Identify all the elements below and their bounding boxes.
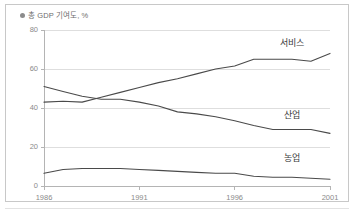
series-label-3: 농업 [284, 153, 300, 164]
series-label-1: 서비스 [280, 38, 304, 49]
x-tick-label: 1991 [119, 193, 159, 202]
chart-plot-area [0, 0, 355, 215]
x-tick-label: 2001 [310, 193, 350, 202]
y-tick-label: 60 [16, 64, 38, 73]
y-tick-label: 40 [16, 103, 38, 112]
y-tick-label: 80 [16, 25, 38, 34]
x-tick-label: 1996 [215, 193, 255, 202]
y-tick-label: 0 [16, 181, 38, 190]
x-tick-label: 1986 [24, 193, 64, 202]
y-tick-label: 20 [16, 142, 38, 151]
series-line-1 [44, 53, 330, 102]
series-label-2: 산업 [284, 110, 300, 121]
series-line-3 [44, 168, 330, 179]
chart-figure: 총 GDP 기여도, % 020406080 1986199119962001 … [0, 0, 355, 215]
